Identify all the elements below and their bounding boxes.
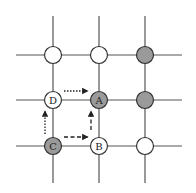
node <box>91 47 108 64</box>
lattice-diagram: DACB <box>0 0 196 193</box>
nodes: DACB <box>45 47 154 155</box>
node-label: B <box>95 141 102 152</box>
node-a: A <box>91 92 108 109</box>
node <box>45 47 62 64</box>
node-d: D <box>45 92 62 109</box>
node-label: C <box>49 141 57 152</box>
node-b: B <box>91 138 108 155</box>
node <box>137 92 154 109</box>
node-c: C <box>45 138 62 155</box>
node-label: D <box>49 95 57 106</box>
node <box>137 138 154 155</box>
node-label: A <box>94 95 103 106</box>
node <box>137 47 154 64</box>
